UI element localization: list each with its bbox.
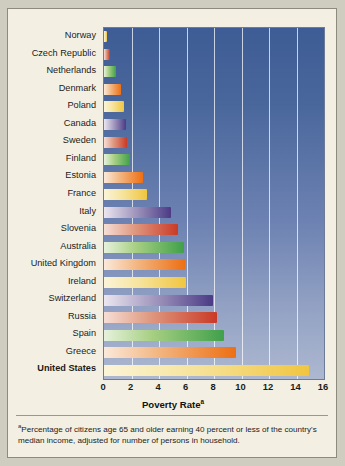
x-axis-title: Poverty Ratea bbox=[8, 398, 338, 410]
y-label-norway: Norway bbox=[65, 27, 96, 45]
x-tick-10: 10 bbox=[235, 381, 245, 392]
bar-row bbox=[104, 204, 324, 222]
bar-row bbox=[104, 221, 324, 239]
bar-switzerland[interactable] bbox=[104, 295, 213, 306]
x-axis-tick-labels: 0246810121416 bbox=[8, 381, 338, 397]
bar-row bbox=[104, 46, 324, 64]
bar-row bbox=[104, 28, 324, 46]
bar-norway[interactable] bbox=[104, 31, 107, 42]
bar-row bbox=[104, 256, 324, 274]
bar-sweden[interactable] bbox=[104, 137, 127, 148]
y-label-italy: Italy bbox=[79, 203, 96, 221]
x-tick-2: 2 bbox=[128, 381, 133, 392]
y-label-netherlands: Netherlands bbox=[46, 62, 96, 80]
x-tick-6: 6 bbox=[183, 381, 188, 392]
y-label-ireland: Ireland bbox=[68, 273, 96, 291]
y-label-estonia: Estonia bbox=[65, 167, 96, 185]
bar-row bbox=[104, 274, 324, 292]
y-label-spain: Spain bbox=[73, 325, 97, 343]
bar-russia[interactable] bbox=[104, 312, 217, 323]
y-label-switzerland: Switzerland bbox=[49, 290, 97, 308]
y-label-slovenia: Slovenia bbox=[61, 220, 96, 238]
figure-panel: NorwayCzech RepublicNetherlandsDenmarkPo… bbox=[7, 8, 337, 458]
bar-row bbox=[104, 133, 324, 151]
y-label-russia: Russia bbox=[68, 308, 96, 326]
bar-denmark[interactable] bbox=[104, 84, 121, 95]
y-label-finland: Finland bbox=[66, 150, 96, 168]
bar-spain[interactable] bbox=[104, 330, 224, 341]
bar-united-states[interactable] bbox=[104, 365, 309, 376]
y-label-greece: Greece bbox=[66, 343, 96, 361]
bar-row bbox=[104, 186, 324, 204]
bar-row bbox=[104, 291, 324, 309]
bar-row bbox=[104, 151, 324, 169]
bar-france[interactable] bbox=[104, 189, 147, 200]
y-label-sweden: Sweden bbox=[63, 132, 96, 150]
footnote: aPercentage of citizens age 65 and older… bbox=[18, 421, 326, 447]
x-tick-0: 0 bbox=[100, 381, 105, 392]
bar-united-kingdom[interactable] bbox=[104, 259, 185, 270]
y-label-canada: Canada bbox=[64, 115, 96, 133]
bar-row bbox=[104, 309, 324, 327]
bar-slovenia[interactable] bbox=[104, 224, 178, 235]
footnote-text: Percentage of citizens age 65 and older … bbox=[18, 425, 317, 445]
bar-estonia[interactable] bbox=[104, 172, 143, 183]
y-label-czech-republic: Czech Republic bbox=[32, 45, 96, 63]
y-label-united-kingdom: United Kingdom bbox=[31, 255, 96, 273]
bar-row bbox=[104, 81, 324, 99]
x-tick-12: 12 bbox=[263, 381, 273, 392]
bar-row bbox=[104, 361, 324, 379]
bar-row bbox=[104, 116, 324, 134]
bar-czech-republic[interactable] bbox=[104, 49, 110, 60]
bar-netherlands[interactable] bbox=[104, 66, 116, 77]
bar-series bbox=[104, 28, 324, 379]
bar-italy[interactable] bbox=[104, 207, 171, 218]
y-label-france: France bbox=[67, 185, 96, 203]
x-axis-title-text: Poverty Rate bbox=[142, 399, 201, 410]
bar-row bbox=[104, 98, 324, 116]
footnote-divider bbox=[16, 415, 328, 416]
bar-poland[interactable] bbox=[104, 101, 124, 112]
plot-area bbox=[103, 27, 325, 380]
x-tick-4: 4 bbox=[155, 381, 160, 392]
bar-finland[interactable] bbox=[104, 154, 130, 165]
y-label-united-states: United States bbox=[37, 360, 96, 378]
bar-ireland[interactable] bbox=[104, 277, 186, 288]
x-tick-14: 14 bbox=[290, 381, 300, 392]
bar-canada[interactable] bbox=[104, 119, 126, 130]
bar-row bbox=[104, 239, 324, 257]
x-tick-8: 8 bbox=[210, 381, 215, 392]
chart-area: NorwayCzech RepublicNetherlandsDenmarkPo… bbox=[8, 9, 338, 409]
bar-row bbox=[104, 168, 324, 186]
x-tick-16: 16 bbox=[318, 381, 328, 392]
x-axis-title-superscript: a bbox=[201, 398, 205, 405]
bar-australia[interactable] bbox=[104, 242, 184, 253]
y-label-australia: Australia bbox=[60, 238, 96, 256]
y-label-poland: Poland bbox=[67, 97, 96, 115]
bar-row bbox=[104, 63, 324, 81]
bar-greece[interactable] bbox=[104, 347, 236, 358]
y-label-denmark: Denmark bbox=[59, 80, 96, 98]
bar-row bbox=[104, 326, 324, 344]
bar-row bbox=[104, 344, 324, 362]
